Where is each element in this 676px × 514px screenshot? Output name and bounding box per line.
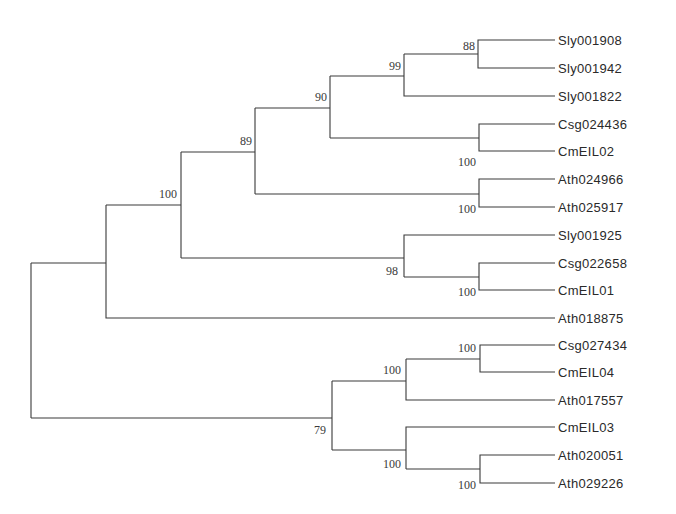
leaf-label: Sly001908 <box>558 33 622 48</box>
bootstrap-value: 100 <box>383 363 401 377</box>
branch-node-79 <box>31 381 332 450</box>
bootstrap-value: 88 <box>463 39 475 53</box>
leaf-label: Ath017557 <box>558 393 624 408</box>
branch-node-100-a <box>106 152 181 258</box>
branch-node-99 <box>330 54 555 96</box>
phylogenetic-tree: Sly001908 Sly001942 Sly001822 Csg024436 … <box>0 0 676 514</box>
branch-node-89 <box>181 108 255 194</box>
branch-upper-clade <box>31 205 555 318</box>
branch-node-100-d <box>404 263 555 290</box>
branch-node-98 <box>181 235 555 277</box>
leaf-label: Ath025917 <box>558 200 624 215</box>
bootstrap-value: 100 <box>458 341 476 355</box>
branch-node-100-f <box>406 345 555 372</box>
branch-node-100-c <box>255 179 555 207</box>
tree-branches <box>31 40 555 483</box>
leaf-label: CmEIL04 <box>558 365 614 380</box>
leaf-label: Ath018875 <box>558 311 624 326</box>
leaf-label: Sly001822 <box>558 89 622 104</box>
bootstrap-value: 98 <box>386 264 398 278</box>
leaf-label: CmEIL02 <box>558 144 614 159</box>
branch-node-100-e <box>332 359 555 400</box>
branch-node-100-g <box>332 427 555 469</box>
bootstrap-value: 89 <box>240 134 252 148</box>
branch-node-100-h <box>406 455 555 483</box>
bootstrap-value: 99 <box>389 59 401 73</box>
branch-node-100-b <box>330 124 555 151</box>
bootstrap-value: 100 <box>383 457 401 471</box>
leaf-label: CmEIL03 <box>558 420 614 435</box>
leaf-label: CmEIL01 <box>558 283 614 298</box>
bootstrap-value: 100 <box>458 155 476 169</box>
leaf-label: Csg027434 <box>558 338 627 353</box>
leaf-labels: Sly001908 Sly001942 Sly001822 Csg024436 … <box>558 33 627 491</box>
branch-node-88 <box>404 40 555 68</box>
leaf-label: Sly001942 <box>558 61 622 76</box>
bootstrap-value: 100 <box>159 187 177 201</box>
leaf-label: Sly001925 <box>558 228 622 243</box>
bootstrap-value: 90 <box>315 90 327 104</box>
leaf-label: Ath029226 <box>558 476 624 491</box>
bootstrap-value: 79 <box>314 423 326 437</box>
leaf-label: Ath020051 <box>558 448 624 463</box>
bootstrap-value: 100 <box>458 202 476 216</box>
leaf-label: Ath024966 <box>558 172 624 187</box>
branch-node-90 <box>255 76 330 138</box>
bootstrap-value: 100 <box>458 478 476 492</box>
leaf-label: Csg022658 <box>558 256 627 271</box>
bootstrap-labels: 88 99 90 89 100 100 100 98 100 100 100 7… <box>159 39 476 492</box>
leaf-label: Csg024436 <box>558 117 627 132</box>
bootstrap-value: 100 <box>458 285 476 299</box>
